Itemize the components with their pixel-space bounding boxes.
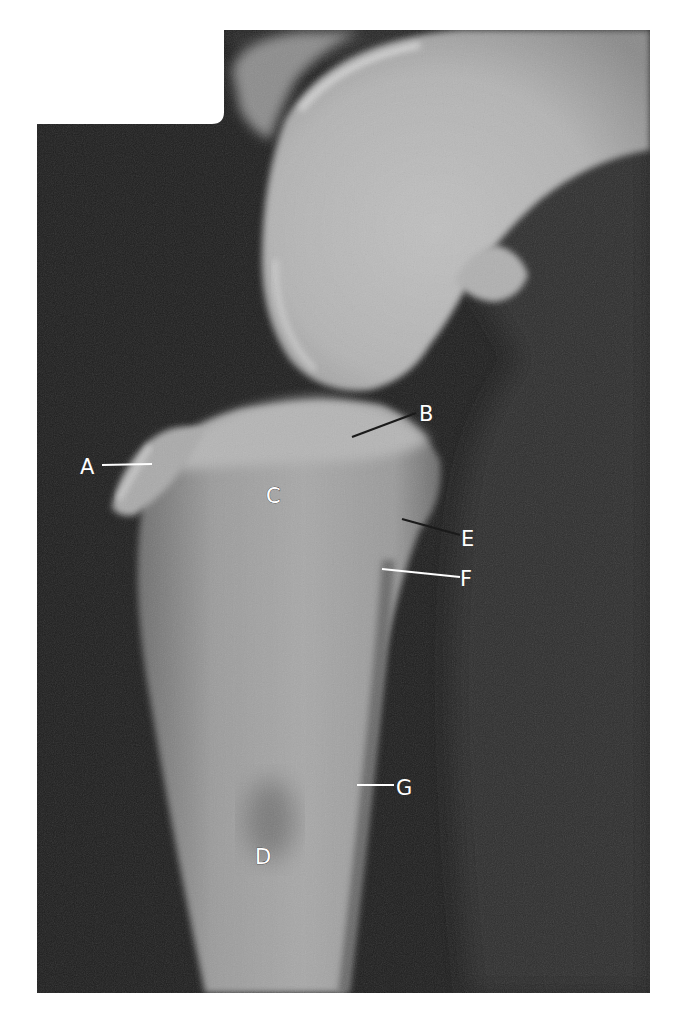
- radiograph-figure: A B C D E F G: [0, 0, 682, 1016]
- label-g: G: [396, 776, 412, 800]
- leader-line-a: [102, 464, 152, 465]
- label-f: F: [460, 567, 472, 591]
- label-a: A: [80, 455, 95, 479]
- xray-film: [0, 0, 682, 1016]
- label-b: B: [419, 402, 433, 426]
- label-c: C: [266, 484, 281, 508]
- label-d: D: [255, 845, 271, 869]
- label-e: E: [461, 527, 474, 551]
